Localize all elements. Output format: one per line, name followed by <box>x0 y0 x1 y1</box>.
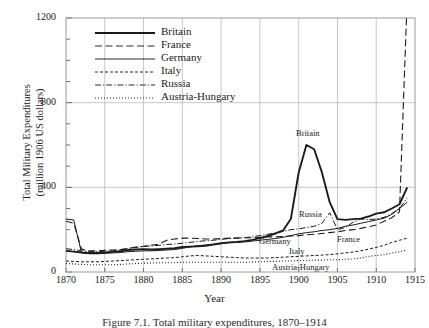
legend-item-austria-hungary: Austria-Hungary <box>95 89 236 102</box>
inline-label-italy: Italy <box>289 246 305 256</box>
legend-key-icon <box>95 38 157 50</box>
legend-label: Italy <box>157 64 181 76</box>
legend-label: Germany <box>157 51 202 63</box>
inline-label-germany: Germany <box>259 236 291 246</box>
y-tick-label: 400 <box>14 180 56 191</box>
x-tick-label: 1915 <box>392 274 429 285</box>
legend-label: Britain <box>157 25 192 37</box>
legend-key-icon <box>95 51 157 63</box>
inline-label-britain: Britain <box>296 128 320 138</box>
legend-key-icon <box>95 90 157 102</box>
series-line-germany <box>66 202 407 254</box>
figure-caption: Figure 7.1. Total military expenditures,… <box>0 316 429 328</box>
legend-item-russia: Russia <box>95 76 236 89</box>
inline-label-austria-hungary: Austria-Hungary <box>272 262 330 272</box>
y-tick-label: 1200 <box>14 11 56 22</box>
legend-label: France <box>157 38 191 50</box>
inline-label-russia: Russia <box>299 209 322 219</box>
legend-key-icon <box>95 25 157 37</box>
legend-label: Russia <box>157 77 190 89</box>
legend-key-icon <box>95 64 157 76</box>
legend-key-icon <box>95 77 157 89</box>
y-tick-label: 800 <box>14 96 56 107</box>
chart-legend: BritainFranceGermanyItalyRussiaAustria-H… <box>95 24 236 102</box>
legend-item-germany: Germany <box>95 50 236 63</box>
legend-item-france: France <box>95 37 236 50</box>
legend-item-britain: Britain <box>95 24 236 37</box>
inline-label-france: France <box>337 234 360 244</box>
legend-item-italy: Italy <box>95 63 236 76</box>
legend-label: Austria-Hungary <box>157 90 236 102</box>
